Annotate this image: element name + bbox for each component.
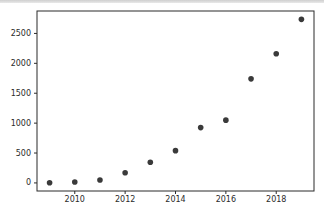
data-point [97,177,103,183]
data-point [273,51,279,57]
data-point [173,148,179,154]
data-point [198,125,204,131]
plot-box [37,11,314,191]
y-tick-label: 2000 [11,59,31,68]
x-tick-label: 2012 [115,195,135,204]
data-point [248,76,254,82]
x-tick-label: 2016 [216,195,236,204]
y-tick-label: 1500 [11,89,31,98]
x-tick-label: 2018 [266,195,286,204]
figure: 2010201220142016201805001000150020002500 [0,0,324,218]
data-point [223,117,229,123]
data-point [72,179,78,185]
data-point [299,17,305,23]
data-point [47,180,53,186]
y-tick-label: 2500 [11,29,31,38]
data-point [122,170,128,176]
data-point [148,159,154,165]
y-tick-label: 500 [16,149,31,158]
y-tick-label: 1000 [11,119,31,128]
x-tick-label: 2014 [165,195,185,204]
y-tick-label: 0 [26,178,31,187]
x-tick-label: 2010 [65,195,85,204]
scatter-chart: 2010201220142016201805001000150020002500 [0,0,324,218]
